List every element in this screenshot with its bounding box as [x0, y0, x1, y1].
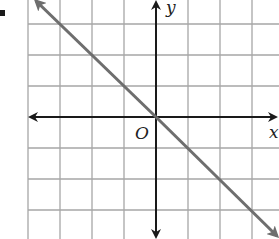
- x-axis-label: x: [269, 122, 279, 142]
- grid: [28, 0, 279, 239]
- origin-label: O: [135, 123, 149, 143]
- plotted-line-upper: [36, 1, 156, 117]
- coordinate-graph: y x O: [0, 0, 279, 239]
- problem-marker-icon: [0, 10, 5, 16]
- y-axis-label: y: [165, 0, 176, 17]
- plotted-line-lower: [156, 117, 277, 236]
